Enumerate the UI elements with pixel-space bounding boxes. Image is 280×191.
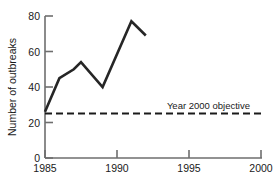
y-tick-label-60: 60: [28, 46, 40, 58]
y-tick-label-20: 20: [28, 117, 40, 129]
data-series-line: [45, 21, 146, 112]
annotation-year-2000-objective: Year 2000 objective: [167, 100, 250, 111]
x-axis-ticks: [45, 150, 261, 158]
x-tick-label-2000: 2000: [249, 162, 273, 174]
line-chart: 80 60 40 20 0 1985 1990 1995 2000 Number…: [0, 0, 280, 191]
y-axis-tick-labels: 80 60 40 20 0: [28, 10, 40, 164]
x-tick-label-1985: 1985: [33, 162, 57, 174]
x-axis-tick-labels: 1985 1990 1995 2000: [33, 162, 273, 174]
x-tick-label-1990: 1990: [105, 162, 129, 174]
y-axis-title: Number of outbreaks: [6, 38, 18, 136]
chart-container: 80 60 40 20 0 1985 1990 1995 2000 Number…: [0, 0, 280, 191]
y-tick-label-80: 80: [28, 10, 40, 22]
y-axis-ticks: [45, 16, 53, 158]
x-tick-label-1995: 1995: [177, 162, 201, 174]
y-tick-label-40: 40: [28, 81, 40, 93]
